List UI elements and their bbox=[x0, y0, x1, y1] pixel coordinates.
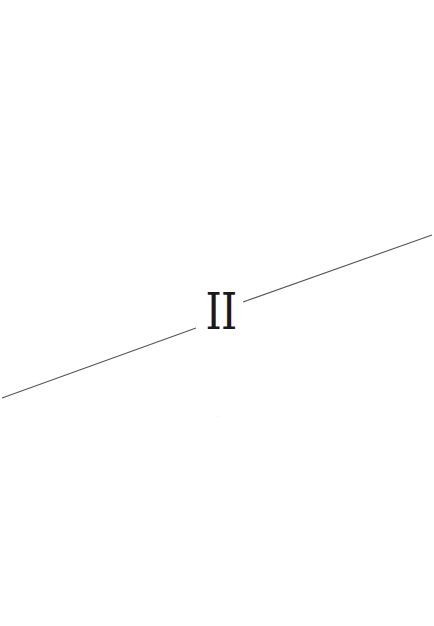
part-divider-page: II bbox=[0, 0, 434, 626]
print-speck bbox=[217, 416, 218, 417]
diagonal-rule-right bbox=[243, 235, 432, 302]
diagonal-rule-left bbox=[2, 328, 196, 398]
part-numeral: II bbox=[204, 283, 238, 341]
